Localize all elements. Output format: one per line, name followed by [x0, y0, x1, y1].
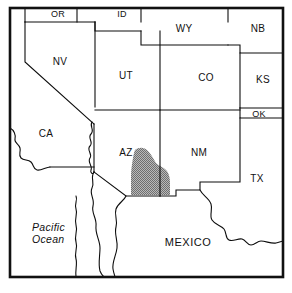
map-label-az: AZ: [119, 147, 132, 158]
map-label-nv: NV: [53, 56, 68, 67]
map-label-pacific-ocean-line1: Pacific: [32, 221, 65, 233]
map-label-ks: KS: [256, 74, 270, 85]
map-label-ok: OK: [252, 109, 266, 119]
map-label-id: ID: [117, 9, 127, 19]
map-label-wy: WY: [176, 23, 193, 34]
map-figure: OR ID WY NB NV UT CO KS CA AZ NM OK TX M…: [0, 0, 292, 293]
map-label-pacific-ocean-line2: Ocean: [32, 233, 64, 245]
map-label-co: CO: [198, 72, 214, 83]
map-label-nm: NM: [191, 147, 207, 158]
map-label-ut: UT: [119, 70, 133, 81]
map-label-ca: CA: [39, 128, 54, 139]
map-label-nb: NB: [251, 23, 266, 34]
map-label-mexico: MEXICO: [165, 236, 211, 248]
map-canvas: OR ID WY NB NV UT CO KS CA AZ NM OK TX M…: [0, 0, 292, 293]
map-label-tx: TX: [250, 173, 263, 184]
map-label-or: OR: [51, 9, 65, 19]
map-background: [0, 0, 292, 293]
